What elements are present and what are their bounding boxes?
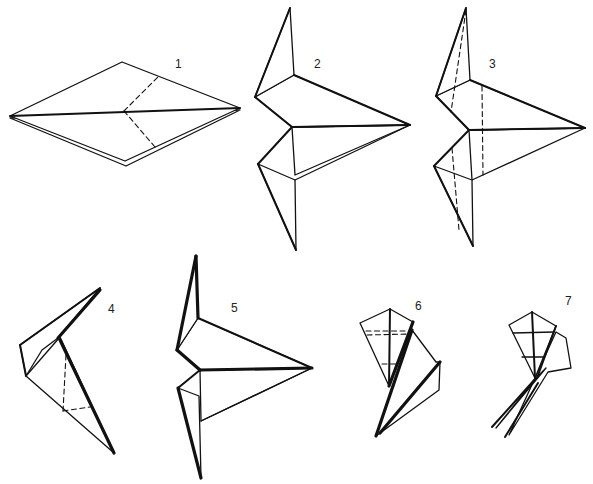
step-4-label: 4 [108, 302, 115, 316]
step-4-drawing: 4 [20, 288, 115, 453]
step-7-tail [496, 368, 546, 428]
step-5-drawing: 5 [177, 256, 312, 478]
step-7-drawing: 7 [492, 294, 572, 437]
step-6-label: 6 [415, 299, 422, 313]
step-2-edge [258, 127, 292, 164]
step-5-edge [200, 368, 312, 370]
step-3-label: 3 [489, 57, 496, 71]
step-5-edge [178, 370, 200, 388]
step-3-upper-body [436, 80, 585, 130]
step-1-label: 1 [175, 57, 182, 71]
step-2-label: 2 [314, 57, 321, 71]
step-5-upper-body [177, 318, 312, 370]
origami-diagram: 1 2 3 [0, 0, 593, 484]
step-5-edge [196, 256, 198, 318]
step-3-drawing: 3 [434, 8, 585, 246]
step-3-lower-body [469, 128, 585, 180]
step-2-drawing: 2 [255, 8, 410, 250]
step-6-edge [389, 309, 390, 386]
step-6-drawing: 6 [360, 299, 440, 436]
step-7-label: 7 [565, 294, 572, 308]
step-1-drawing: 1 [10, 57, 240, 166]
step-5-label: 5 [231, 301, 238, 315]
step-2-lower-body [292, 125, 410, 175]
